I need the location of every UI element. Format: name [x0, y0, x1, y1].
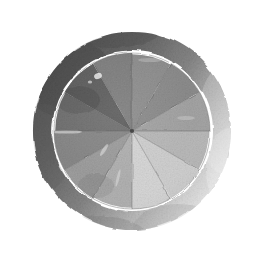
artwork-canvas: Watercolor Grayscale Color Wheel	[0, 0, 265, 265]
watercolor-color-wheel	[0, 0, 265, 265]
wheel-center-point	[130, 129, 134, 133]
